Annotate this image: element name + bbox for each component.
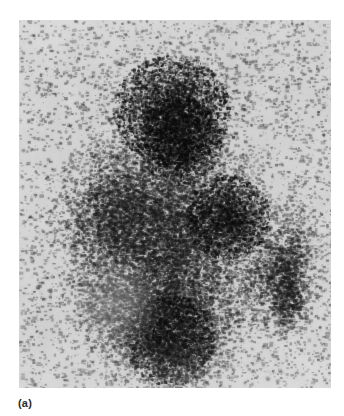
scintigram-panel (19, 20, 331, 388)
scintigram-image (19, 20, 331, 388)
figure-part-label: (a) (18, 396, 32, 410)
figure-root: (a) (0, 0, 344, 416)
